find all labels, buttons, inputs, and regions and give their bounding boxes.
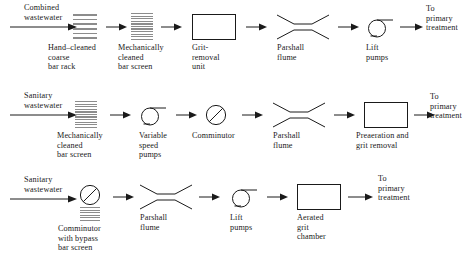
outlet-arrow — [400, 22, 424, 32]
flow-arrow — [246, 22, 268, 32]
parshall-flume-icon — [140, 185, 192, 209]
flow-arrow — [267, 192, 289, 202]
lift-pump-icon — [139, 104, 167, 126]
flow-arrow — [110, 110, 132, 120]
flow-arrow — [106, 22, 128, 32]
node-label: Parshall flume — [273, 131, 300, 150]
flow-arrow — [113, 192, 135, 202]
inlet-arrow — [10, 110, 78, 120]
node-label: Preaeration and grit removal — [356, 131, 409, 150]
source-label: Sanitary wastewater — [24, 91, 62, 110]
rectangular-tank-icon — [192, 14, 236, 40]
mechanical-bar-screen-icon — [131, 13, 153, 40]
flow-arrow — [199, 192, 221, 202]
flow-arrow — [334, 110, 356, 120]
parshall-flume-icon — [277, 15, 329, 39]
node-label: Hand–cleaned coarse bar rack — [48, 43, 96, 72]
outlet-label: To primary treatment — [378, 174, 410, 203]
node-label: Parshall flume — [277, 43, 304, 62]
parshall-flume-icon — [273, 103, 325, 127]
flow-arrow — [338, 22, 360, 32]
node-label: Comminutor with bypass bar screen — [58, 224, 101, 253]
comminutor-icon — [205, 104, 227, 126]
node-label: Lift pumps — [366, 43, 388, 62]
node-label: Comminutor — [192, 131, 235, 141]
comminutor-with-bypass-screen-icon — [79, 184, 101, 206]
flow-arrow — [161, 22, 183, 32]
coarse-bar-rack-icon — [73, 14, 97, 39]
node-label: Lift pumps — [230, 213, 252, 232]
lift-pump-icon — [366, 16, 394, 38]
process-flow-diagram: Combined wastewater Hand–cleaned coarse … — [0, 0, 474, 264]
node-label: Parshall flume — [140, 213, 167, 232]
mechanical-bar-screen-icon — [75, 101, 97, 128]
node-label: Variable speed pumps — [139, 131, 167, 160]
node-label: Mechanically cleaned bar screen — [57, 131, 103, 160]
outlet-arrow — [348, 192, 374, 202]
source-label: Sanitary wastewater — [24, 175, 62, 194]
flow-arrow — [242, 110, 264, 120]
node-label: Mechanically cleaned bar screen — [118, 43, 164, 72]
outlet-label: To primary treatment — [426, 4, 458, 33]
inlet-arrow — [10, 22, 78, 32]
bypass-bar-screen-icon — [80, 207, 100, 221]
node-label: Grit- removal unit — [192, 43, 220, 72]
node-label: Aerated grit chamber — [297, 213, 326, 242]
inlet-arrow — [10, 194, 78, 204]
source-label: Combined wastewater — [24, 3, 62, 22]
flow-arrow — [176, 110, 198, 120]
rectangular-tank-icon — [297, 184, 341, 210]
lift-pump-icon — [230, 186, 258, 208]
rectangular-tank-icon — [364, 102, 408, 128]
outlet-label: To primary treatment — [430, 92, 462, 121]
